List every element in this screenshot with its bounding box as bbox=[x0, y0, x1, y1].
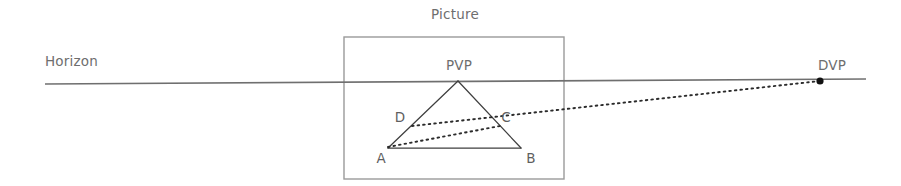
vertex-label-d: D bbox=[395, 109, 405, 125]
dvp-point-marker bbox=[816, 77, 823, 84]
vertex-label-b: B bbox=[526, 150, 535, 166]
dvp-label: DVP bbox=[818, 57, 846, 73]
picture-label: Picture bbox=[431, 6, 479, 22]
vertex-label-a: A bbox=[376, 150, 386, 166]
vertex-label-c: C bbox=[501, 109, 510, 125]
horizon-label: Horizon bbox=[45, 53, 98, 69]
diagram-background bbox=[0, 0, 901, 186]
diagram-canvas: Horizon Picture PVP DVP A B C D bbox=[0, 0, 901, 186]
pvp-label: PVP bbox=[446, 57, 472, 73]
perspective-diagram: Horizon Picture PVP DVP A B C D bbox=[0, 0, 901, 186]
